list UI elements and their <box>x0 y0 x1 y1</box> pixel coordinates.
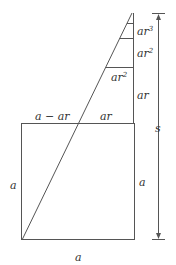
arrowhead-down-icon <box>156 233 161 239</box>
hypotenuse-line <box>22 13 132 240</box>
label-s: s <box>155 122 161 135</box>
square <box>22 124 135 240</box>
label-ar-top: ar <box>100 110 113 123</box>
label-ar3: ar3 <box>137 25 154 38</box>
geometric-series-diagram: ar3 ar2 ar2 ar a − ar ar s a a a <box>0 0 176 265</box>
label-ar2-inner: ar2 <box>111 71 128 84</box>
label-a-minus-ar: a − ar <box>35 110 70 123</box>
label-ar2-right: ar2 <box>137 47 154 60</box>
label-a-bottom: a <box>75 251 82 264</box>
label-a-right: a <box>139 176 146 189</box>
arrowhead-up-icon <box>156 14 161 20</box>
label-ar-right: ar <box>137 89 150 102</box>
label-a-left: a <box>10 179 17 192</box>
